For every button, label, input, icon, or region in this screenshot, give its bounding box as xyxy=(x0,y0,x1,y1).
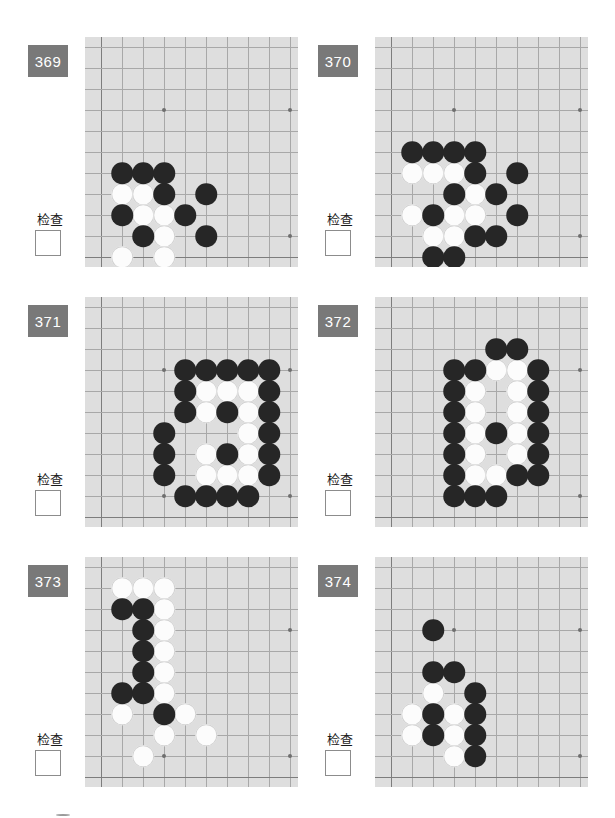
black-stone[interactable] xyxy=(216,401,238,423)
black-stone[interactable] xyxy=(485,485,507,507)
go-board[interactable] xyxy=(85,37,298,267)
white-stone[interactable] xyxy=(195,401,217,423)
white-stone[interactable] xyxy=(237,464,259,486)
black-stone[interactable] xyxy=(132,162,154,184)
white-stone[interactable] xyxy=(443,204,465,226)
black-stone[interactable] xyxy=(464,745,486,767)
black-stone[interactable] xyxy=(527,401,549,423)
black-stone[interactable] xyxy=(258,422,280,444)
white-stone[interactable] xyxy=(464,183,486,205)
black-stone[interactable] xyxy=(464,141,486,163)
black-stone[interactable] xyxy=(527,359,549,381)
black-stone[interactable] xyxy=(422,619,444,641)
black-stone[interactable] xyxy=(443,246,465,267)
black-stone[interactable] xyxy=(153,464,175,486)
black-stone[interactable] xyxy=(443,422,465,444)
black-stone[interactable] xyxy=(443,359,465,381)
white-stone[interactable] xyxy=(132,204,154,226)
white-stone[interactable] xyxy=(195,724,217,746)
black-stone[interactable] xyxy=(111,204,133,226)
white-stone[interactable] xyxy=(506,380,528,402)
white-stone[interactable] xyxy=(506,401,528,423)
check-checkbox[interactable] xyxy=(35,230,61,256)
black-stone[interactable] xyxy=(506,204,528,226)
check-checkbox[interactable] xyxy=(325,230,351,256)
white-stone[interactable] xyxy=(506,443,528,465)
black-stone[interactable] xyxy=(464,162,486,184)
white-stone[interactable] xyxy=(443,724,465,746)
black-stone[interactable] xyxy=(464,359,486,381)
black-stone[interactable] xyxy=(443,183,465,205)
white-stone[interactable] xyxy=(443,225,465,247)
white-stone[interactable] xyxy=(111,183,133,205)
black-stone[interactable] xyxy=(132,661,154,683)
go-board[interactable] xyxy=(85,557,298,787)
white-stone[interactable] xyxy=(443,162,465,184)
black-stone[interactable] xyxy=(464,485,486,507)
white-stone[interactable] xyxy=(443,745,465,767)
black-stone[interactable] xyxy=(258,359,280,381)
white-stone[interactable] xyxy=(132,745,154,767)
black-stone[interactable] xyxy=(132,598,154,620)
black-stone[interactable] xyxy=(443,443,465,465)
go-board[interactable] xyxy=(375,557,588,787)
black-stone[interactable] xyxy=(153,422,175,444)
white-stone[interactable] xyxy=(485,359,507,381)
white-stone[interactable] xyxy=(174,703,196,725)
white-stone[interactable] xyxy=(111,246,133,267)
black-stone[interactable] xyxy=(527,464,549,486)
white-stone[interactable] xyxy=(132,577,154,599)
white-stone[interactable] xyxy=(153,640,175,662)
black-stone[interactable] xyxy=(401,141,423,163)
black-stone[interactable] xyxy=(153,183,175,205)
white-stone[interactable] xyxy=(153,724,175,746)
black-stone[interactable] xyxy=(443,485,465,507)
black-stone[interactable] xyxy=(443,141,465,163)
white-stone[interactable] xyxy=(464,204,486,226)
white-stone[interactable] xyxy=(464,422,486,444)
white-stone[interactable] xyxy=(401,703,423,725)
black-stone[interactable] xyxy=(111,598,133,620)
black-stone[interactable] xyxy=(527,422,549,444)
white-stone[interactable] xyxy=(401,724,423,746)
black-stone[interactable] xyxy=(174,401,196,423)
black-stone[interactable] xyxy=(132,640,154,662)
black-stone[interactable] xyxy=(258,464,280,486)
black-stone[interactable] xyxy=(237,485,259,507)
black-stone[interactable] xyxy=(174,204,196,226)
black-stone[interactable] xyxy=(258,443,280,465)
black-stone[interactable] xyxy=(153,703,175,725)
check-checkbox[interactable] xyxy=(325,750,351,776)
check-checkbox[interactable] xyxy=(35,750,61,776)
white-stone[interactable] xyxy=(422,162,444,184)
black-stone[interactable] xyxy=(216,443,238,465)
black-stone[interactable] xyxy=(174,485,196,507)
black-stone[interactable] xyxy=(258,401,280,423)
black-stone[interactable] xyxy=(174,359,196,381)
white-stone[interactable] xyxy=(422,225,444,247)
go-board[interactable] xyxy=(375,297,588,527)
black-stone[interactable] xyxy=(422,661,444,683)
white-stone[interactable] xyxy=(506,422,528,444)
black-stone[interactable] xyxy=(485,225,507,247)
white-stone[interactable] xyxy=(153,619,175,641)
white-stone[interactable] xyxy=(485,464,507,486)
white-stone[interactable] xyxy=(153,682,175,704)
black-stone[interactable] xyxy=(485,183,507,205)
black-stone[interactable] xyxy=(506,338,528,360)
check-checkbox[interactable] xyxy=(35,490,61,516)
black-stone[interactable] xyxy=(195,359,217,381)
white-stone[interactable] xyxy=(237,401,259,423)
black-stone[interactable] xyxy=(506,162,528,184)
white-stone[interactable] xyxy=(153,598,175,620)
black-stone[interactable] xyxy=(422,724,444,746)
black-stone[interactable] xyxy=(111,682,133,704)
black-stone[interactable] xyxy=(195,485,217,507)
white-stone[interactable] xyxy=(111,703,133,725)
black-stone[interactable] xyxy=(485,338,507,360)
black-stone[interactable] xyxy=(506,464,528,486)
black-stone[interactable] xyxy=(464,703,486,725)
black-stone[interactable] xyxy=(195,225,217,247)
white-stone[interactable] xyxy=(216,380,238,402)
black-stone[interactable] xyxy=(527,380,549,402)
